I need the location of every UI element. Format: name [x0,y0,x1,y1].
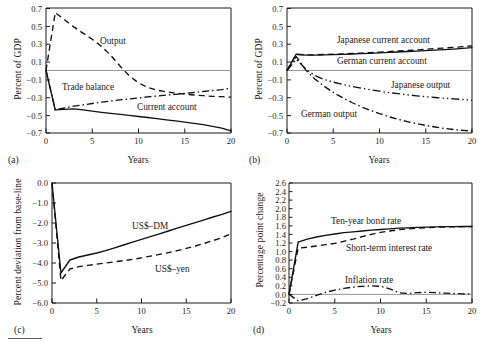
panel-c-xlabel: Years [112,325,172,335]
xtick-label: 20 [468,136,477,146]
xtick-label: 0 [44,136,48,146]
xtick-label: 20 [227,136,236,146]
series-german-output [287,57,472,132]
panel-a-curve-labels: Output Trade balance Current account [62,36,197,112]
ytick-label: −0.1 [26,75,42,85]
panel-b-xlabel: Years [349,155,409,165]
ytick-label: −2.0 [32,218,48,228]
panel-c-tag: (c) [14,325,25,335]
ytick-label: 0.3 [272,39,283,49]
ytick-label: 0.5 [272,22,283,32]
panel-b-curve-labels: Japanese current account German current … [301,35,451,119]
panel-a-tag: (a) [8,155,19,165]
panel-b-ylabel: Percent of GDP [254,24,264,114]
panel-d-xtick-marks [289,299,472,304]
label-ten-year-bond-rate: Ten-year bond rate [331,216,401,226]
label-japanese-output: Japanese output [391,80,451,90]
panel-a-series [46,13,231,131]
panel-a-ylabel: Percent of GDP [13,24,23,114]
series-current-account [46,71,231,131]
xtick-label: 10 [137,306,146,316]
series-usd-yen [52,183,231,281]
ytick-label: −4.0 [32,258,48,268]
panel-b-xtick-labels: 0 5 10 15 20 [285,136,476,146]
ytick-label: −0.3 [267,93,283,103]
ytick-label: −0.5 [26,111,42,121]
xtick-label: 5 [95,306,99,316]
panel-b-xtick-marks [287,129,472,134]
ytick-label: 0.1 [31,57,42,67]
xtick-label: 20 [468,306,477,316]
xtick-label: 10 [375,136,384,146]
xtick-label: 10 [376,306,385,316]
ytick-label: 0.1 [272,57,283,67]
ytick-label: −0.5 [267,111,283,121]
panel-d-series [289,227,472,301]
panel-c-axes [52,183,231,303]
ytick-label: −0.7 [26,128,42,138]
label-german-output: German output [301,109,357,119]
ytick-label: −0.7 [267,128,283,138]
panel-b: 0.7 0.5 0.3 0.1 −0.1 −0.3 −0.5 −0.7 0 5 … [241,0,482,175]
xtick-label: 15 [422,306,431,316]
panel-c-xtick-marks [52,299,231,304]
panel-c: 0.0 −1.0 −2.0 −3.0 −4.0 −5.0 −6.0 0 5 10… [0,173,241,348]
panel-c-xtick-labels: 0 5 10 15 20 [50,306,235,316]
ytick-label: −6.0 [32,298,48,308]
footer-rule [8,338,42,339]
xtick-label: 15 [182,306,191,316]
panel-d: 2.6 2.4 2.2 2.0 1.8 1.6 1.4 1.2 1.0 0.8 … [241,173,482,348]
xtick-label: 0 [50,306,54,316]
panel-d-xlabel: Years [351,325,411,335]
xtick-label: 5 [333,306,337,316]
panel-d-curve-labels: Ten-year bond rate Short-term interest r… [331,216,432,285]
ytick-label: −5.0 [32,278,48,288]
label-japanese-current-account: Japanese current account [337,35,430,45]
label-current-account: Current account [137,102,197,112]
label-short-term-interest-rate: Short-term interest rate [346,243,432,253]
ytick-label: −0.1 [267,75,283,85]
panel-d-ytick-labels: 2.6 2.4 2.2 2.0 1.8 1.6 1.4 1.2 1.0 0.8 … [270,178,286,308]
label-german-current-account: German current account [337,56,427,66]
ytick-label: −1.0 [32,198,48,208]
label-trade-balance: Trade balance [62,82,114,92]
ytick-label: 0.7 [31,4,42,14]
panel-a-xtick-labels: 0 5 10 15 20 [44,136,235,146]
ytick-label: 0.7 [272,4,283,14]
panel-a-xtick-marks [46,129,231,134]
xtick-label: 15 [421,136,430,146]
panel-a: 0.7 0.5 0.3 0.1 −0.1 −0.3 −0.5 −0.7 0 5 … [0,0,241,175]
panel-d-tag: (d) [253,325,264,335]
label-inflation-rate: Inflation rate [345,275,393,285]
ytick-label: 0.3 [31,39,42,49]
label-output: Output [100,36,126,46]
xtick-label: 20 [227,306,236,316]
label-usd-yen: US$–yen [155,264,190,274]
panel-c-ylabel: Percent deviation from base-line [13,165,23,320]
ytick-label: 0.0 [37,178,48,188]
ytick-label: −0.3 [26,93,42,103]
panel-c-curve-labels: US$–DM US$–yen [132,221,190,274]
panel-d-xtick-labels: 0 5 10 15 20 [287,306,476,316]
xtick-label: 15 [180,136,189,146]
panel-b-plot: 0.7 0.5 0.3 0.1 −0.1 −0.3 −0.5 −0.7 0 5 … [241,0,482,175]
panel-d-ylabel: Percentage point change [255,178,265,303]
ytick-label: −0.2 [270,298,286,308]
panel-a-ytick-labels: 0.7 0.5 0.3 0.1 −0.1 −0.3 −0.5 −0.7 [26,4,42,139]
panel-b-tag: (b) [249,155,260,165]
panel-c-ytick-labels: 0.0 −1.0 −2.0 −3.0 −4.0 −5.0 −6.0 [32,178,48,308]
xtick-label: 0 [285,136,289,146]
xtick-label: 5 [331,136,335,146]
panel-d-plot: 2.6 2.4 2.2 2.0 1.8 1.6 1.4 1.2 1.0 0.8 … [241,173,482,348]
figure-four-panel-chart: 0.7 0.5 0.3 0.1 −0.1 −0.3 −0.5 −0.7 0 5 … [0,0,483,350]
panel-a-plot: 0.7 0.5 0.3 0.1 −0.1 −0.3 −0.5 −0.7 0 5 … [0,0,241,175]
panel-b-ytick-labels: 0.7 0.5 0.3 0.1 −0.1 −0.3 −0.5 −0.7 [267,4,283,139]
ytick-label: 0.5 [31,22,42,32]
ytick-label: −3.0 [32,238,48,248]
panel-c-plot: 0.0 −1.0 −2.0 −3.0 −4.0 −5.0 −6.0 0 5 10… [0,173,241,348]
panel-a-xlabel: Years [108,155,168,165]
panel-c-series [52,183,231,281]
xtick-label: 5 [90,136,94,146]
xtick-label: 10 [134,136,143,146]
xtick-label: 0 [287,306,291,316]
